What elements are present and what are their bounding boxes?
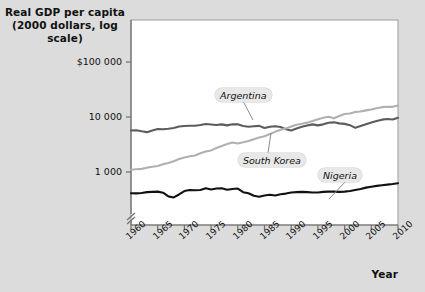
series-label-argentina: Argentina (215, 88, 272, 102)
x-axis-title: Year (352, 268, 398, 281)
plot-background (131, 20, 398, 225)
y-tick-label: 10 000 (36, 111, 122, 122)
series-label-south-korea: South Korea (238, 153, 306, 167)
chart-plot-area (0, 0, 425, 292)
chart-figure: Real GDP per capita (2000 dollars, log s… (0, 0, 425, 292)
y-tick-label: 1 000 (36, 166, 122, 177)
y-tick-label: $100 000 (36, 56, 122, 67)
series-label-nigeria: Nigeria (318, 168, 362, 182)
